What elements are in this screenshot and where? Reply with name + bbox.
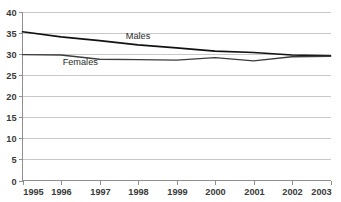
y-tick-label: 25 bbox=[6, 71, 16, 81]
tickmarks-group bbox=[19, 13, 332, 185]
series-label-males: Males bbox=[126, 31, 151, 41]
x-tick-label: 1996 bbox=[51, 187, 71, 197]
y-tick-label: 40 bbox=[6, 8, 16, 18]
x-tick-label: 1997 bbox=[90, 187, 110, 197]
y-tick-label: 0 bbox=[11, 177, 16, 187]
x-tick-label: 2000 bbox=[205, 187, 225, 197]
y-tick-label: 10 bbox=[6, 134, 16, 144]
x-tick-label: 2002 bbox=[282, 187, 302, 197]
y-tick-label: 5 bbox=[11, 155, 16, 165]
x-tick-label: 2001 bbox=[244, 187, 264, 197]
y-tick-label: 15 bbox=[6, 113, 16, 123]
x-tick-label: 1998 bbox=[128, 187, 148, 197]
series-line-males bbox=[23, 32, 331, 56]
x-tick-label: 2003 bbox=[311, 187, 331, 197]
line-chart: 0510152025303540 19951996199719981999200… bbox=[0, 0, 341, 202]
gridlines-group bbox=[23, 13, 331, 160]
chart-canvas: 0510152025303540 19951996199719981999200… bbox=[0, 0, 341, 202]
series-inline-labels: MalesFemales bbox=[63, 31, 151, 67]
y-tick-label: 30 bbox=[6, 50, 16, 60]
y-tick-label: 20 bbox=[6, 92, 16, 102]
x-tick-label: 1999 bbox=[167, 187, 187, 197]
series-label-females: Females bbox=[63, 57, 99, 67]
x-axis-tick-labels: 199519961997199819992000200120022003 bbox=[23, 187, 331, 197]
y-tick-label: 35 bbox=[6, 29, 16, 39]
y-axis-tick-labels: 0510152025303540 bbox=[6, 8, 16, 187]
x-tick-label: 1995 bbox=[23, 187, 43, 197]
